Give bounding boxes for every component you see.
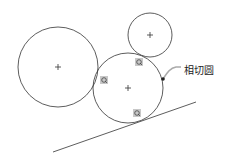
callout-pointer xyxy=(161,67,181,81)
callout-label: 相切圆 xyxy=(184,62,214,77)
center-mark-icon xyxy=(125,85,131,91)
pointer-dot-icon xyxy=(161,77,165,81)
tangent-line xyxy=(53,102,196,152)
center-mark-icon xyxy=(55,64,61,70)
tangent-markers xyxy=(100,58,143,117)
center-mark-icon xyxy=(147,32,153,38)
tangent-marker-icon xyxy=(100,76,108,84)
tangent-circle-diagram xyxy=(0,0,229,161)
tangent-marker-icon xyxy=(135,58,143,66)
tangent-marker-icon xyxy=(133,109,141,117)
